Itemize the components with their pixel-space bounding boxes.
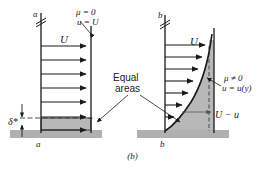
station-label-b-bottom: b xyxy=(160,140,165,149)
freestream-label-right: U xyxy=(190,36,198,47)
velocity-deficit-label: U − u xyxy=(215,110,239,120)
shaded-equal-area-left xyxy=(41,118,91,130)
displacement-thickness-label: δ* xyxy=(8,117,18,127)
equal-areas-annotation-line1: Equal xyxy=(113,73,139,83)
viscosity-label-left: μ = 0 xyxy=(76,8,96,17)
figure-displacement-thickness: U U μ = 0 u = U μ ≠ 0 u = u(y) U − u Equ… xyxy=(0,0,265,170)
figure-caption: (b) xyxy=(0,152,265,161)
velocity-label-right: u = u(y) xyxy=(222,84,252,93)
equal-areas-annotation-line2: areas xyxy=(115,84,140,94)
station-label-b-top: b xyxy=(158,11,163,20)
equal-areas-leader-lines xyxy=(97,95,180,122)
station-label-a-bottom: a xyxy=(36,140,41,149)
velocity-label-left: u = U xyxy=(77,18,99,27)
velocity-arrows-left xyxy=(41,46,86,130)
station-label-a-top: a xyxy=(33,10,38,19)
wall-plate-right xyxy=(137,130,229,138)
viscosity-label-right: μ ≠ 0 xyxy=(224,74,242,83)
wall-plate-left xyxy=(10,130,102,138)
freestream-label-left: U xyxy=(60,34,68,45)
